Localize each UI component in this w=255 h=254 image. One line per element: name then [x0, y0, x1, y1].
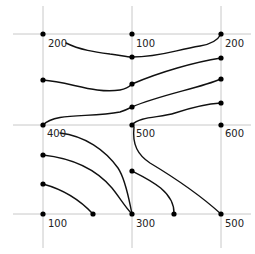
value-label-middle-left: 400 — [47, 128, 66, 139]
contour-line — [134, 127, 221, 214]
contour-line — [43, 184, 93, 214]
value-label-top-middle: 100 — [136, 38, 155, 49]
intermediate-node — [129, 168, 134, 173]
contour-line — [132, 171, 174, 214]
intermediate-node — [40, 152, 45, 157]
node-top-left — [40, 31, 45, 36]
intermediate-node — [218, 76, 223, 81]
intermediate-node — [129, 54, 134, 59]
intermediate-node — [129, 81, 134, 86]
node-bottom-middle — [129, 211, 134, 216]
node-top-middle — [129, 31, 134, 36]
contour-diagram: 200 100 200 400 500 600 100 300 500 — [0, 0, 255, 254]
node-middle-right — [218, 122, 223, 127]
value-label-bottom-left: 100 — [48, 218, 67, 229]
node-bottom-left — [40, 211, 45, 216]
intermediate-node — [218, 100, 223, 105]
value-label-middle-middle: 500 — [136, 128, 155, 139]
intermediate-node — [40, 77, 45, 82]
node-middle-left — [40, 122, 45, 127]
node-top-right — [218, 31, 223, 36]
intermediate-node — [90, 211, 95, 216]
contour-line — [132, 103, 221, 125]
intermediate-node — [40, 181, 45, 186]
intermediate-node — [171, 211, 176, 216]
value-label-bottom-middle: 300 — [136, 218, 155, 229]
node-bottom-right — [218, 211, 223, 216]
intermediate-node — [218, 55, 223, 60]
value-label-middle-right: 600 — [225, 128, 244, 139]
intermediate-node — [129, 104, 134, 109]
value-label-top-right: 200 — [225, 38, 244, 49]
node-middle-middle — [129, 122, 134, 127]
value-label-bottom-right: 500 — [225, 218, 244, 229]
value-label-top-left: 200 — [48, 38, 67, 49]
contour-line — [43, 155, 132, 214]
